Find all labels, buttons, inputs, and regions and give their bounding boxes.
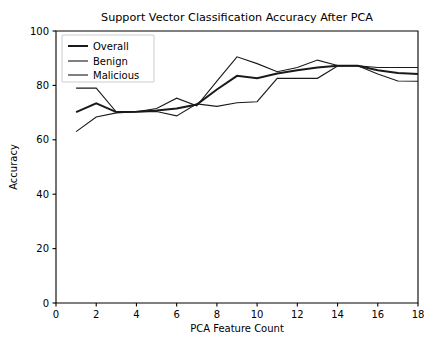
y-tick-label: 0 bbox=[43, 298, 49, 309]
y-tick-label: 100 bbox=[30, 26, 49, 37]
chart-legend: Overall Benign Malicious bbox=[62, 35, 154, 82]
x-tick-label: 2 bbox=[93, 309, 99, 320]
chart-title: Support Vector Classification Accuracy A… bbox=[101, 11, 373, 24]
x-tick-label: 12 bbox=[291, 309, 304, 320]
x-tick-label: 18 bbox=[412, 309, 425, 320]
y-tick-label: 60 bbox=[36, 134, 49, 145]
x-tick-label: 4 bbox=[133, 309, 139, 320]
x-tick-label: 6 bbox=[173, 309, 179, 320]
x-tick-label: 0 bbox=[53, 309, 59, 320]
x-tick-label: 8 bbox=[214, 309, 220, 320]
x-tick-label: 10 bbox=[251, 309, 264, 320]
y-axis-label: Accuracy bbox=[8, 144, 19, 190]
chart-figure: Support Vector Classification Accuracy A… bbox=[0, 0, 437, 349]
legend-label-malicious: Malicious bbox=[93, 70, 139, 81]
legend-label-overall: Overall bbox=[93, 41, 129, 52]
x-tick-label: 14 bbox=[331, 309, 344, 320]
y-tick-label: 40 bbox=[36, 189, 49, 200]
legend-label-benign: Benign bbox=[93, 56, 128, 67]
y-tick-label: 20 bbox=[36, 243, 49, 254]
y-tick-label: 80 bbox=[36, 80, 49, 91]
support-vector-accuracy-line-chart: Support Vector Classification Accuracy A… bbox=[0, 0, 437, 349]
x-axis-label: PCA Feature Count bbox=[190, 323, 284, 334]
x-tick-label: 16 bbox=[371, 309, 384, 320]
